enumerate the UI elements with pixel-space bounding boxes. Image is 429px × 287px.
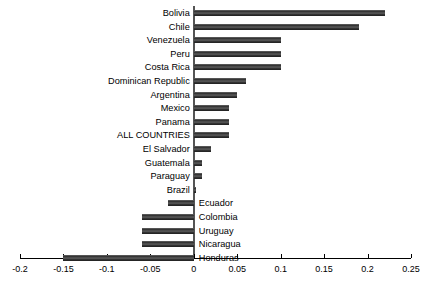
x-axis-tick-label: 0.25 bbox=[386, 264, 429, 274]
bar-chart: -0.2-0.15-0.1-0.0500.050.10.150.20.25Bol… bbox=[0, 0, 429, 287]
chart-row: Chile bbox=[0, 20, 429, 34]
bar bbox=[194, 37, 281, 43]
chart-row: Argentina bbox=[0, 88, 429, 102]
chart-row: Dominican Republic bbox=[0, 74, 429, 88]
category-label: Guatemala bbox=[0, 156, 190, 170]
bar bbox=[63, 255, 193, 261]
category-label: Brazil bbox=[0, 183, 190, 197]
chart-row: Colombia bbox=[0, 210, 429, 224]
category-label: Mexico bbox=[0, 101, 190, 115]
chart-row: El Salvador bbox=[0, 142, 429, 156]
chart-row: Bolivia bbox=[0, 6, 429, 20]
bar bbox=[168, 200, 194, 206]
bar bbox=[194, 24, 359, 30]
bar bbox=[142, 214, 194, 220]
chart-row: Panama bbox=[0, 115, 429, 129]
bar bbox=[142, 228, 194, 234]
category-label: Panama bbox=[0, 115, 190, 129]
chart-row: Brazil bbox=[0, 183, 429, 197]
bar bbox=[194, 173, 202, 179]
category-label: Chile bbox=[0, 20, 190, 34]
category-label: Uruguay bbox=[199, 224, 234, 238]
chart-row: Guatemala bbox=[0, 156, 429, 170]
category-label: ALL COUNTRIES bbox=[0, 128, 190, 142]
category-label: Costa Rica bbox=[0, 60, 190, 74]
bar bbox=[194, 160, 202, 166]
category-label: Dominican Republic bbox=[0, 74, 190, 88]
bar bbox=[194, 92, 237, 98]
bar bbox=[194, 132, 229, 138]
bar bbox=[194, 105, 229, 111]
chart-row: ALL COUNTRIES bbox=[0, 128, 429, 142]
chart-row: Nicaragua bbox=[0, 237, 429, 251]
chart-row: Honduras bbox=[0, 251, 429, 265]
bar bbox=[194, 64, 281, 70]
plot-area: -0.2-0.15-0.1-0.0500.050.10.150.20.25Bol… bbox=[0, 0, 429, 287]
chart-row: Uruguay bbox=[0, 224, 429, 238]
bar bbox=[194, 51, 281, 57]
chart-row: Mexico bbox=[0, 101, 429, 115]
chart-row: Venezuela bbox=[0, 33, 429, 47]
category-label: El Salvador bbox=[0, 142, 190, 156]
bar bbox=[194, 10, 385, 16]
bar bbox=[194, 78, 246, 84]
chart-row: Paraguay bbox=[0, 169, 429, 183]
chart-row: Costa Rica bbox=[0, 60, 429, 74]
chart-row: Ecuador bbox=[0, 196, 429, 210]
bar bbox=[194, 187, 196, 193]
bar bbox=[194, 119, 229, 125]
category-label: Ecuador bbox=[199, 196, 233, 210]
category-label: Paraguay bbox=[0, 169, 190, 183]
category-label: Bolivia bbox=[0, 6, 190, 20]
category-label: Nicaragua bbox=[199, 237, 241, 251]
category-label: Argentina bbox=[0, 88, 190, 102]
category-label: Colombia bbox=[199, 210, 238, 224]
chart-row: Peru bbox=[0, 47, 429, 61]
bar bbox=[194, 146, 211, 152]
bar bbox=[142, 241, 194, 247]
category-label: Honduras bbox=[199, 251, 239, 265]
category-label: Venezuela bbox=[0, 33, 190, 47]
category-label: Peru bbox=[0, 47, 190, 61]
